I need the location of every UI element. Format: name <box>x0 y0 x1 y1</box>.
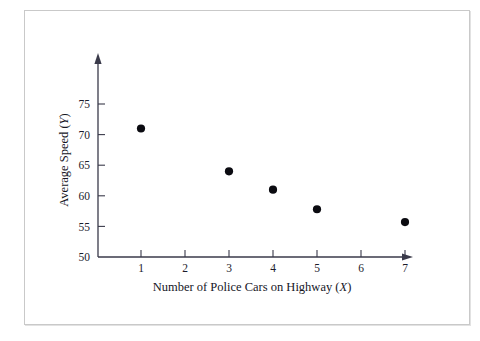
svg-text:Average Speed (Y): Average Speed (Y) <box>57 113 71 207</box>
x-axis-title: Number of Police Cars on Highway (X) <box>153 280 352 294</box>
data-points-group <box>137 124 409 226</box>
x-tick-label-5: 5 <box>314 262 320 274</box>
y-tick-label-50: 50 <box>79 251 91 263</box>
y-tick-labels: 50 55 60 65 70 75 <box>79 98 91 263</box>
y-axis-title: Average Speed (Y) <box>57 113 71 207</box>
data-point <box>269 186 277 194</box>
x-tick-label-6: 6 <box>358 262 364 274</box>
y-axis-title-close: ) <box>57 113 71 117</box>
x-axis <box>98 253 413 260</box>
y-axis-arrow-icon <box>94 53 101 64</box>
y-tick-label-55: 55 <box>79 221 91 233</box>
chart-canvas: 50 55 60 65 70 75 1 2 3 4 5 6 7 <box>0 0 480 341</box>
data-point <box>313 205 321 213</box>
y-tick-label-65: 65 <box>79 159 91 171</box>
y-axis-title-main: Average Speed ( <box>57 124 71 206</box>
scatter-plot: 50 55 60 65 70 75 1 2 3 4 5 6 7 <box>0 0 480 341</box>
x-tick-label-4: 4 <box>270 262 276 274</box>
data-point <box>401 218 409 226</box>
x-tick-marks <box>141 250 405 257</box>
y-tick-marks <box>98 104 105 226</box>
y-tick-label-60: 60 <box>79 190 91 202</box>
y-tick-label-70: 70 <box>79 129 91 141</box>
x-axis-arrow-icon <box>402 253 413 260</box>
x-tick-label-1: 1 <box>138 262 144 274</box>
x-axis-title-main: Number of Police Cars on Highway ( <box>153 280 340 294</box>
x-tick-label-7: 7 <box>402 262 408 274</box>
data-point <box>137 124 145 132</box>
x-tick-label-3: 3 <box>226 262 232 274</box>
x-axis-title-close: ) <box>347 280 351 294</box>
svg-text:Number of Police Cars on Highw: Number of Police Cars on Highway (X) <box>153 280 352 294</box>
data-point <box>225 167 233 175</box>
x-tick-labels: 1 2 3 4 5 6 7 <box>138 262 408 274</box>
x-tick-label-2: 2 <box>182 262 188 274</box>
y-tick-label-75: 75 <box>79 98 91 110</box>
